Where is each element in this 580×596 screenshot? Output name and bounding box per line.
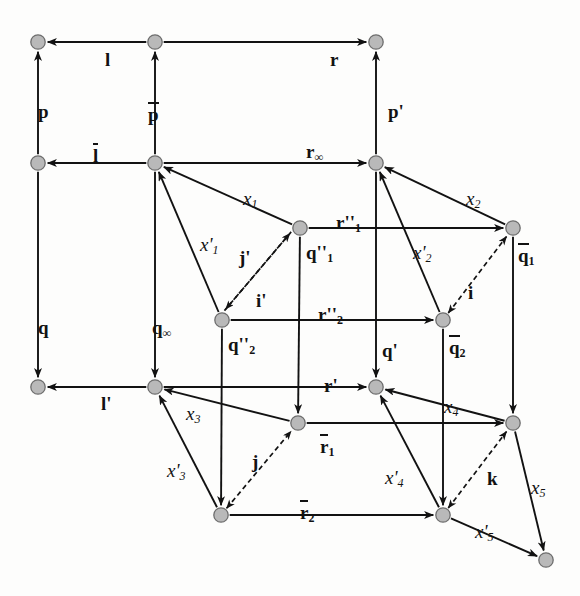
edge-i — [448, 237, 506, 314]
node-layer — [31, 35, 553, 567]
label-l-prime: l' — [101, 394, 112, 413]
edge-x4prime — [380, 396, 438, 508]
node-n_bm — [148, 380, 162, 394]
label-x5: x5 — [531, 478, 545, 499]
label-r: r — [330, 50, 338, 69]
label-x5prime: x'5 — [475, 522, 494, 543]
node-n_r1 — [291, 416, 305, 430]
label-p-bar: p — [148, 102, 159, 124]
label-qbar1: q1 — [518, 243, 535, 267]
node-n_ml — [31, 156, 45, 170]
node-n_qb2 — [436, 313, 450, 327]
label-q-inf: q∞ — [152, 318, 171, 339]
label-l-bar: l — [93, 143, 98, 165]
label-l: l — [105, 50, 110, 69]
label-i: i — [468, 283, 473, 302]
label-rbar2: r2 — [300, 500, 314, 524]
label-x1: x1 — [243, 189, 257, 210]
label-r-inf: r∞ — [306, 142, 323, 163]
label-r-prime: r' — [324, 376, 338, 395]
node-n_q1 — [293, 221, 307, 235]
node-n_mm — [148, 156, 162, 170]
label-qbar2: q2 — [449, 335, 466, 359]
label-i-prime: i' — [256, 291, 267, 310]
label-q-prime: q' — [382, 341, 398, 360]
label-x3: x3 — [186, 404, 200, 425]
diagram-canvas: lrppp'lr∞qq∞l'r'q'q''1q''2q1q2r''1r''2r1… — [0, 0, 580, 596]
label-x4prime: x'4 — [385, 468, 404, 489]
label-r2p2: r''2 — [318, 305, 343, 326]
label-j: j — [252, 452, 258, 471]
diagram-svg — [0, 0, 580, 596]
node-n_r2 — [214, 508, 228, 522]
label-r2p1: r''1 — [336, 213, 361, 234]
node-n_tm — [148, 35, 162, 49]
label-x2: x2 — [466, 189, 480, 210]
edge-x2prime — [380, 172, 440, 312]
label-q: q — [38, 318, 49, 337]
node-n_br2 — [436, 508, 450, 522]
node-n_rr — [506, 416, 520, 430]
label-q2p1: q''1 — [306, 243, 333, 264]
label-p: p — [38, 102, 49, 121]
label-x3prime: x'3 — [167, 461, 186, 482]
label-rbar1: r1 — [320, 434, 334, 458]
node-n_mr — [369, 156, 383, 170]
node-n_qb1 — [506, 221, 520, 235]
node-n_tl — [31, 35, 45, 49]
label-q2p2: q''2 — [228, 335, 255, 356]
node-n_br — [369, 380, 383, 394]
node-n_bl — [31, 380, 45, 394]
edge-j — [227, 431, 292, 508]
edge-q2-r2 — [221, 329, 222, 506]
node-n_q2 — [215, 313, 229, 327]
edge-x5prime — [451, 518, 537, 556]
edge-x2 — [385, 167, 505, 224]
edge-x1 — [164, 167, 292, 224]
node-n_tr — [369, 35, 383, 49]
label-p-prime: p' — [388, 102, 404, 121]
label-x2prime: x'2 — [413, 243, 432, 264]
label-k: k — [487, 469, 498, 488]
label-x1prime: x'1 — [200, 235, 219, 256]
label-x4: x4 — [444, 397, 458, 418]
node-n_far — [539, 553, 553, 567]
edge-x3 — [164, 389, 289, 421]
label-j-prime: j' — [239, 248, 251, 267]
